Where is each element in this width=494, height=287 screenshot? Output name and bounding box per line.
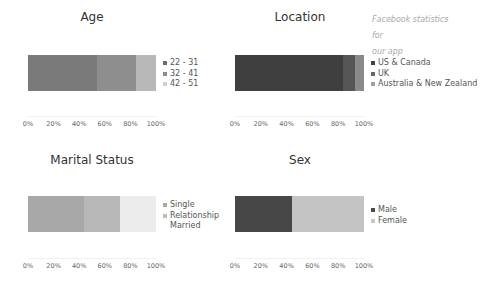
square-bullet-icon (371, 82, 375, 86)
axis-tick-label: 80% (123, 120, 137, 128)
legend-item: Australia & New Zealand (371, 79, 477, 90)
legend-item: 42 - 51 (163, 79, 198, 90)
axis-tick-label: 40% (279, 120, 293, 128)
axis-line (28, 258, 156, 259)
axis-tick-label: 20% (46, 120, 60, 128)
bar-segment (136, 55, 156, 91)
axis-tick-label: 0% (230, 262, 240, 270)
axis-line (235, 258, 364, 259)
x-axis: 0%20%40%60%80%100% (28, 120, 156, 130)
square-bullet-icon (163, 214, 167, 218)
axis-line (235, 116, 364, 117)
bar-segment (355, 55, 364, 91)
bar-segment (235, 55, 343, 91)
stacked-bar (235, 55, 364, 91)
bar-segment (84, 196, 120, 232)
axis-tick-label: 80% (331, 262, 345, 270)
chart-title: Sex (235, 153, 365, 167)
legend-item: Female (371, 216, 407, 227)
axis-tick-label: 60% (98, 120, 112, 128)
square-bullet-icon (371, 61, 375, 65)
square-bullet-icon (163, 72, 167, 76)
square-bullet-icon (163, 203, 167, 207)
bar-segment (28, 55, 97, 91)
legend-item: 32 - 41 (163, 69, 198, 80)
x-axis: 0%20%40%60%80%100% (235, 120, 364, 130)
axis-tick-label: 100% (355, 120, 374, 128)
legend-item: 22 - 31 (163, 58, 198, 69)
sex-chart: Sex Male Female 0%20%40%60%80%100% (207, 143, 454, 286)
axis-tick-label: 80% (123, 262, 137, 270)
axis-tick-label: 100% (355, 262, 374, 270)
legend-item: Male (371, 205, 407, 216)
stacked-bar (28, 196, 156, 232)
axis-tick-label: 100% (147, 120, 166, 128)
x-axis: 0%20%40%60%80%100% (235, 262, 364, 272)
legend-item: UK (371, 69, 477, 80)
axis-tick-label: 80% (331, 120, 345, 128)
square-bullet-icon (163, 61, 167, 65)
legend: US & Canada UK Australia & New Zealand (371, 58, 477, 90)
bar-segment (235, 196, 292, 232)
bar-segment (28, 196, 84, 232)
square-bullet-icon (163, 82, 167, 86)
annotation-text: Facebook statistics for our app (372, 12, 462, 60)
axis-tick-label: 0% (230, 120, 240, 128)
axis-tick-label: 60% (305, 120, 319, 128)
square-bullet-icon (371, 72, 375, 76)
axis-tick-label: 60% (98, 262, 112, 270)
square-bullet-icon (371, 208, 375, 212)
chart-title: Age (27, 10, 157, 24)
axis-tick-label: 40% (72, 120, 86, 128)
axis-tick-label: 100% (147, 262, 166, 270)
stacked-bar (28, 55, 156, 91)
bar-segment (97, 55, 135, 91)
bar-segment (292, 196, 364, 232)
x-axis: 0%20%40%60%80%100% (28, 262, 156, 272)
axis-tick-label: 0% (23, 120, 33, 128)
axis-tick-label: 40% (72, 262, 86, 270)
chart-title: Location (235, 10, 365, 24)
axis-tick-label: 20% (254, 262, 268, 270)
bar-segment (120, 196, 156, 232)
square-bullet-icon (371, 219, 375, 223)
bar-segment (343, 55, 355, 91)
legend: Male Female (371, 205, 407, 226)
legend: 22 - 31 32 - 41 42 - 51 (163, 58, 198, 90)
axis-tick-label: 40% (279, 262, 293, 270)
axis-tick-label: 20% (254, 120, 268, 128)
axis-tick-label: 20% (46, 262, 60, 270)
chart-title: Marital Status (27, 153, 157, 167)
axis-tick-label: 0% (23, 262, 33, 270)
axis-tick-label: 60% (305, 262, 319, 270)
stacked-bar (235, 196, 364, 232)
square-bullet-icon (163, 224, 167, 228)
axis-line (28, 116, 156, 117)
